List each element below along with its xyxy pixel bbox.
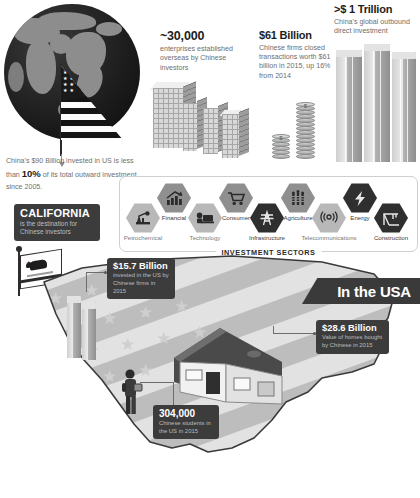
globe-illustration: ★★★★★★★★★★★★★★	[4, 4, 144, 154]
stat-global-odi-label: China's global outbound direct investmen…	[334, 18, 418, 37]
map-tower-icon-1	[67, 296, 81, 358]
coin-stack-small-icon: $	[272, 126, 290, 162]
callout-students: 304,000 Chinese students in the US in 20…	[153, 405, 219, 439]
callout-fdi-label: invested in the US by Chinese firms in 2…	[113, 272, 169, 295]
leader-students-vertical	[173, 382, 174, 406]
sector-infrastructure[interactable]: Infrastructure	[250, 203, 284, 233]
sector-label-infrastructure: Infrastructure	[249, 234, 285, 241]
house-icon	[150, 318, 290, 410]
callout-students-value: 304,000	[159, 408, 213, 419]
power-pylon-icon	[250, 203, 284, 233]
callout-fdi-value: $15.7 Billion	[113, 261, 169, 271]
crane-icon	[374, 203, 408, 233]
student-person-icon	[118, 368, 144, 416]
callout-fdi-2015: $15.7 Billion invested in the US by Chin…	[107, 258, 175, 299]
infographic-canvas: ★★★★★★★★★★★★★★ China's $90 Billion inves…	[0, 0, 420, 498]
stat-transactions-value: $61 Billion	[259, 30, 331, 42]
leader-fdi-vertical	[86, 272, 87, 292]
sector-label-energy: Energy	[350, 214, 369, 221]
sector-label-telecommunications: Telecommunications	[301, 234, 356, 241]
leader-fdi-horizontal	[86, 272, 106, 273]
leader-homes-horizontal	[273, 333, 316, 334]
antenna-icon	[312, 203, 346, 233]
stat-enterprises-value: ~30,000	[160, 30, 255, 43]
stat-global-odi-value: >$ 1 Trillion	[334, 4, 418, 16]
sector-label-technology: Technology	[190, 234, 221, 241]
skyscraper-icon-2	[364, 44, 390, 162]
california-subtitle: is the destination for Chinese investors	[20, 220, 94, 237]
globe-caption-percent: 10%	[22, 168, 41, 179]
sector-label-construction: Construction	[374, 234, 408, 241]
sector-consumer[interactable]: Consumer	[219, 183, 253, 213]
sector-petrochemical[interactable]: Petrochemical	[126, 203, 160, 233]
bar-chart-arrow-icon	[157, 183, 191, 213]
sector-energy[interactable]: Energy	[343, 183, 377, 213]
callout-homes-label: Value of homes bought by Chinese in 2015	[322, 334, 383, 349]
skyscraper-icon-3	[392, 52, 416, 162]
stat-transactions-label: Chinese firms closed transactions worth …	[259, 44, 331, 81]
building-icon-4	[222, 110, 250, 162]
stat-transactions: $61 Billion Chinese firms closed transac…	[259, 30, 331, 81]
in-the-usa-label: In the USA	[337, 283, 411, 300]
callout-homes-value: $28.6 Billion	[322, 323, 383, 333]
sector-label-agriculture: Agriculture	[283, 214, 312, 221]
investment-sectors-panel: Petrochemical Financial Technology	[119, 176, 418, 252]
oil-pump-icon	[126, 203, 160, 233]
svg-text:★: ★	[102, 309, 117, 328]
sector-financial[interactable]: Financial	[157, 183, 191, 213]
svg-text:★: ★	[120, 335, 135, 354]
leader-homes-vertical	[273, 326, 274, 334]
map-tower-icon-2	[82, 302, 96, 360]
sector-technology[interactable]: Technology	[188, 203, 222, 233]
leader-students-horizontal	[140, 382, 174, 383]
callout-california: CALIFORNIA is the destination for Chines…	[14, 204, 100, 241]
computer-icon	[188, 203, 222, 233]
sector-construction[interactable]: Construction	[374, 203, 408, 233]
stat-enterprises: ~30,000 enterprises established overseas…	[160, 30, 255, 73]
sector-label-financial: Financial	[162, 214, 186, 221]
wheat-icon	[281, 183, 315, 213]
stat-enterprises-label: enterprises established overseas by Chin…	[160, 45, 255, 73]
lightning-bolt-icon	[343, 183, 377, 213]
shopping-cart-icon	[219, 183, 253, 213]
sector-label-consumer: Consumer	[222, 214, 250, 221]
callout-homes: $28.6 Billion Value of homes bought by C…	[316, 320, 389, 354]
svg-text:★: ★	[174, 297, 189, 316]
sector-agriculture[interactable]: Agriculture	[281, 183, 315, 213]
skyscraper-icon-1	[336, 50, 362, 162]
callout-students-label: Chinese students in the US in 2015	[159, 420, 213, 435]
in-the-usa-ribbon: In the USA	[302, 278, 420, 304]
california-title: CALIFORNIA	[20, 207, 94, 219]
stat-global-odi: >$ 1 Trillion China's global outbound di…	[334, 4, 418, 36]
sector-telecommunications[interactable]: Telecommunications	[312, 203, 346, 233]
sector-label-petrochemical: Petrochemical	[124, 234, 163, 241]
coin-stack-large-icon: $	[296, 98, 315, 162]
